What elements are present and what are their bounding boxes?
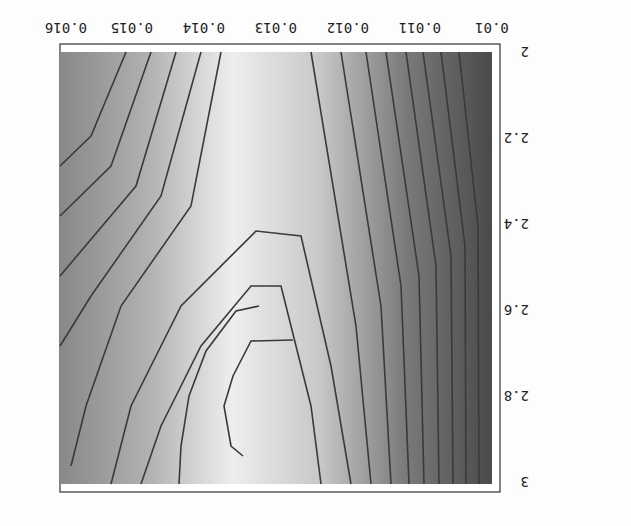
- x-tick-label: 0.013: [255, 20, 297, 36]
- y-tick-label: 2.6: [504, 302, 529, 318]
- y-tick-label: 2: [521, 44, 529, 60]
- x-tick-label: 0.01: [475, 20, 509, 36]
- y-tick-label: 2.4: [504, 216, 529, 232]
- rotated-figure: 0.01 0.011 0.012 0.013 0.014 0.015 0.016…: [0, 0, 631, 526]
- plot-fill: [60, 52, 492, 484]
- x-tick-label: 0.011: [399, 20, 441, 36]
- contour-plot: [0, 0, 631, 526]
- x-tick-label: 0.012: [327, 20, 369, 36]
- x-tick-label: 0.015: [111, 20, 153, 36]
- y-tick-label: 3: [521, 474, 529, 490]
- y-tick-label: 2.8: [504, 388, 529, 404]
- x-tick-label: 0.016: [45, 20, 87, 36]
- y-tick-label: 2.2: [504, 130, 529, 146]
- x-tick-label: 0.014: [183, 20, 225, 36]
